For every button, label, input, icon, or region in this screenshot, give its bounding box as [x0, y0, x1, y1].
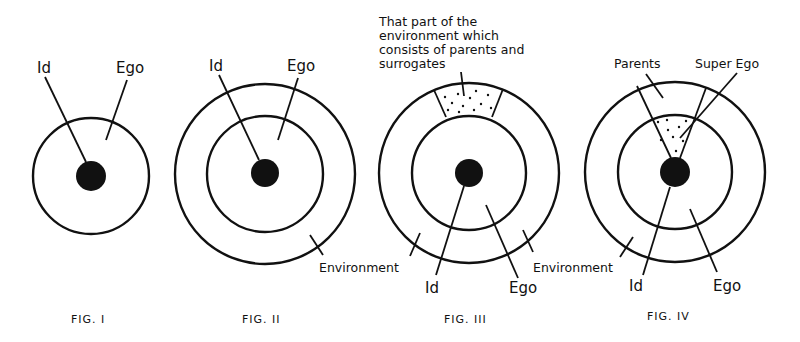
- psyche-diagram: Id Ego FIG. I Id Ego Environment FIG. II: [0, 0, 800, 342]
- id-dot: [455, 159, 483, 187]
- figure-caption: FIG. IV: [647, 310, 690, 323]
- annotation-line-3: consists of parents and: [379, 42, 524, 57]
- ego-label: Ego: [509, 279, 537, 297]
- environment-label: Environment: [319, 260, 399, 275]
- parents-stipple: [444, 90, 492, 113]
- figure-2: Id Ego Environment FIG. II: [175, 57, 399, 326]
- parents-label: Parents: [614, 56, 661, 71]
- id-dot: [76, 161, 106, 191]
- figure-caption: FIG. I: [71, 313, 105, 326]
- id-dot: [251, 159, 279, 187]
- ego-pointer: [486, 205, 518, 278]
- ego-label: Ego: [287, 57, 315, 75]
- ego-pointer: [690, 209, 717, 272]
- figure-3: That part of the environment which consi…: [378, 14, 613, 326]
- segment-edge-right: [492, 89, 503, 117]
- ego-label: Ego: [116, 59, 144, 77]
- figure-caption: FIG. II: [242, 313, 281, 326]
- id-dot: [660, 157, 690, 187]
- environment-label: Environment: [533, 260, 613, 275]
- wedge-edge-left: [637, 86, 671, 158]
- environment-pointer-left: [410, 233, 420, 256]
- figure-caption: FIG. III: [444, 313, 487, 326]
- id-label: Id: [629, 277, 643, 295]
- id-label: Id: [425, 279, 439, 297]
- super-ego-label: Super Ego: [695, 56, 759, 71]
- annotation-line-1: That part of the: [378, 14, 478, 29]
- environment-pointer: [620, 237, 633, 257]
- figure-1: Id Ego FIG. I: [33, 59, 149, 326]
- annotation-line-4: surrogates: [379, 56, 446, 71]
- annotation-line-2: environment which: [379, 28, 499, 43]
- ego-pointer: [106, 80, 127, 140]
- id-label: Id: [37, 59, 51, 77]
- id-label: Id: [209, 57, 223, 75]
- segment-edge-left: [434, 90, 446, 117]
- environment-pointer-right: [523, 230, 533, 252]
- ego-label: Ego: [713, 277, 741, 295]
- figure-4: Parents Super Ego Id Ego FIG. IV: [585, 56, 765, 323]
